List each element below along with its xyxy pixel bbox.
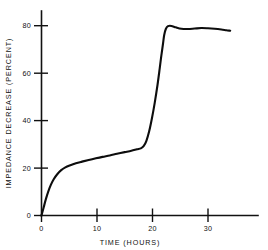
y-tick-label-0: 0 bbox=[27, 211, 31, 220]
chart-figure: IMPEDANCE DECREASE (PERCENT) 80 60 40 20… bbox=[0, 0, 268, 250]
data-series-line bbox=[42, 26, 231, 216]
x-axis-tick-labels: 0 10 20 30 bbox=[39, 224, 212, 233]
y-tick-label-60: 60 bbox=[22, 69, 31, 78]
x-tick-label-30: 30 bbox=[204, 224, 213, 233]
y-tick-label-40: 40 bbox=[22, 116, 31, 125]
x-axis-title: TIME (HOURS) bbox=[100, 238, 161, 247]
x-tick-label-0: 0 bbox=[39, 224, 43, 233]
y-tick-label-80: 80 bbox=[22, 21, 31, 30]
y-axis-title: IMPEDANCE DECREASE (PERCENT) bbox=[4, 38, 13, 189]
x-tick-label-20: 20 bbox=[148, 224, 157, 233]
x-tick-label-10: 10 bbox=[93, 224, 102, 233]
chart-plot-area: IMPEDANCE DECREASE (PERCENT) 80 60 40 20… bbox=[0, 0, 268, 250]
y-tick-label-20: 20 bbox=[22, 164, 31, 173]
y-axis-tick-labels: 80 60 40 20 0 bbox=[22, 21, 31, 220]
